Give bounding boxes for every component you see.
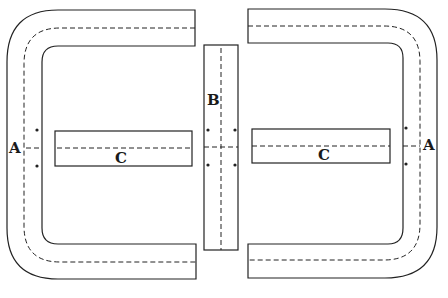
pattern-drawing — [0, 0, 448, 298]
right-piece-a — [248, 9, 437, 278]
label-c-right: C — [318, 148, 330, 163]
left-fold-line — [24, 28, 196, 262]
label-b: B — [207, 93, 220, 108]
diagram-canvas: A A B C C — [0, 0, 448, 298]
left-piece-a — [7, 10, 196, 279]
label-c-left: C — [115, 151, 127, 166]
label-a-right: A — [423, 138, 435, 153]
right-fold-line — [248, 26, 420, 260]
label-a-left: A — [9, 141, 21, 156]
